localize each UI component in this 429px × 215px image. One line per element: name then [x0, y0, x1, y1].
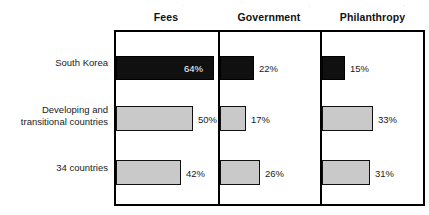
bar-value-philanthropy-developing-countries: 33%: [378, 115, 397, 125]
bar-government-developing-countries: [220, 106, 246, 131]
column-header-fees: Fees: [114, 11, 218, 23]
bar-government-south-korea: [220, 56, 254, 80]
scan-noise-artifact: [150, 0, 429, 9]
bar-value-fees-34-countries: 42%: [186, 169, 205, 179]
column-header-philanthropy: Philanthropy: [320, 11, 425, 23]
row-label-south-korea: South Korea: [0, 57, 108, 69]
row-label-line: 34 countries: [0, 162, 108, 174]
row-label-line: South Korea: [0, 57, 108, 69]
row-label-line: Developing and: [0, 104, 108, 116]
bar-value-philanthropy-south-korea: 15%: [350, 64, 369, 74]
bar-value-fees-south-korea: 64%: [184, 64, 203, 74]
column-header-government: Government: [218, 11, 320, 23]
row-label-developing-countries: Developing and transitional countries: [0, 104, 108, 127]
bar-philanthropy-34-countries: [322, 160, 370, 185]
plot-area: 64% 50% 42% 22% 17% 26% 15% 33% 31%: [114, 30, 425, 206]
bar-fees-developing-countries: [116, 106, 193, 131]
bar-value-philanthropy-34-countries: 31%: [375, 169, 394, 179]
bar-value-government-south-korea: 22%: [259, 64, 278, 74]
row-label-line: transitional countries: [0, 116, 108, 128]
bar-government-34-countries: [220, 160, 260, 185]
bar-philanthropy-developing-countries: [322, 106, 373, 131]
grouped-bar-chart: Fees Government Philanthropy South Korea…: [0, 0, 429, 215]
bar-value-government-developing-countries: 17%: [251, 115, 270, 125]
bar-value-fees-developing-countries: 50%: [198, 115, 217, 125]
bar-value-government-34-countries: 26%: [265, 169, 284, 179]
bar-philanthropy-south-korea: [322, 56, 345, 80]
bar-fees-34-countries: [116, 160, 181, 185]
row-label-34-countries: 34 countries: [0, 162, 108, 174]
